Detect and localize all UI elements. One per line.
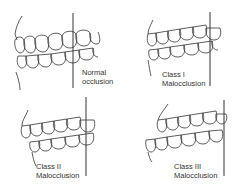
label-line2: Malocclusion — [174, 171, 217, 180]
panel-class-1-malocclusion: Class I Malocclusion — [118, 0, 236, 92]
label-line1: Normal — [82, 68, 113, 77]
label-class-1-malocclusion: Class I Malocclusion — [162, 70, 205, 88]
label-line1: Class III — [174, 162, 217, 171]
label-class-2-malocclusion: Class II Malocclusion — [36, 162, 79, 180]
panel-class-3-malocclusion: Class III Malocclusion — [118, 92, 236, 184]
label-class-3-malocclusion: Class III Malocclusion — [174, 162, 217, 180]
panel-class-2-malocclusion: Class II Malocclusion — [0, 92, 118, 184]
label-line2: Malocclusion — [162, 79, 205, 88]
label-normal-occlusion: Normal occlusion — [82, 68, 113, 86]
label-line2: occlusion — [82, 77, 113, 86]
label-line1: Class II — [36, 162, 79, 171]
panel-normal-occlusion: Normal occlusion — [0, 0, 118, 92]
label-line1: Class I — [162, 70, 205, 79]
label-line2: Malocclusion — [36, 171, 79, 180]
